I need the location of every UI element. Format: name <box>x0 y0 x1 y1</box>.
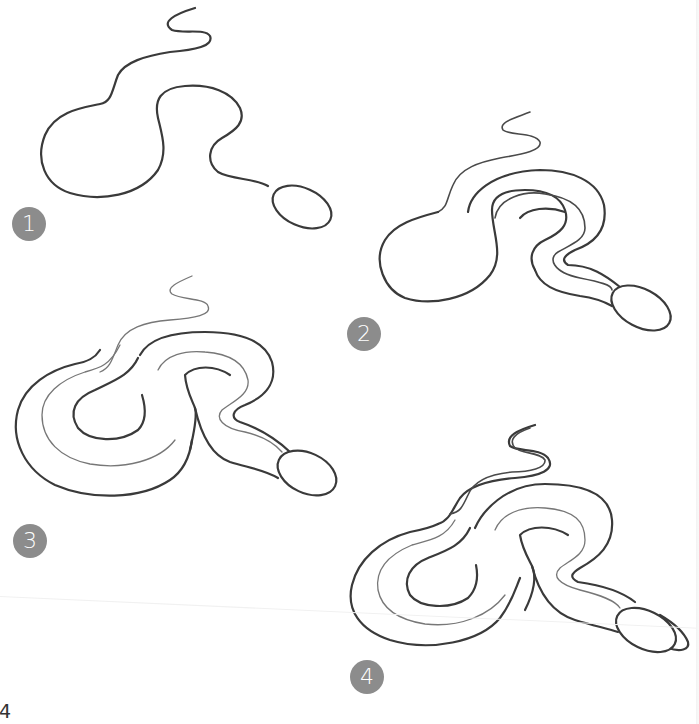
drawing-tutorial-page: 1 2 3 4 4 <box>0 0 699 724</box>
step-2-head <box>604 276 678 340</box>
step-2-body-outer-top <box>468 170 620 287</box>
step-2-inner-curl <box>520 209 565 218</box>
snake-drawing-steps <box>0 0 699 724</box>
page-number: 4 <box>0 700 11 722</box>
step-3-inner-loop <box>73 358 144 439</box>
step-2-body-outline <box>380 190 567 301</box>
step-1-drawing <box>41 8 338 237</box>
step-2-tail-line <box>438 112 540 212</box>
step-4-inner-loop <box>407 528 477 606</box>
step-3-drawing <box>16 276 344 504</box>
step-4-upper-coil <box>475 484 635 602</box>
step-3-lower-body <box>195 408 278 478</box>
step-1-body-outline <box>41 8 268 197</box>
step-4-outer-body <box>351 524 520 645</box>
step-2-body-inner-line <box>495 193 612 290</box>
step-4-middle-curl <box>520 528 568 611</box>
step-2-drawing <box>380 112 678 340</box>
step-1-head <box>266 177 338 237</box>
step-3-upper-inner <box>158 352 282 452</box>
step-3-belly-line <box>42 345 175 466</box>
step-2-badge: 2 <box>347 317 381 351</box>
step-3-badge: 3 <box>13 524 47 558</box>
step-2-lower-body <box>535 270 612 306</box>
step-4-badge: 4 <box>350 660 384 694</box>
step-1-badge: 1 <box>12 207 46 241</box>
step-3-tail-line <box>100 276 209 372</box>
step-3-upper-coil <box>140 332 290 452</box>
